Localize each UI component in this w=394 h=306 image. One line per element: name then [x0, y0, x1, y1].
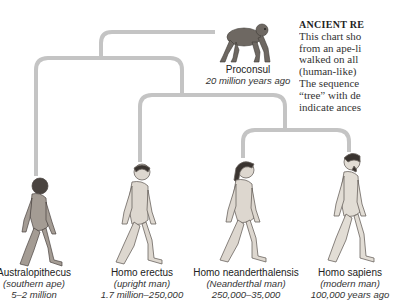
ancestor-name: Proconsul — [196, 64, 300, 75]
caption-line: “tree” with de — [299, 90, 389, 102]
species-date: 1.7 million–250,000 — [88, 289, 196, 300]
species-common-name: (modern man) — [300, 278, 394, 289]
species-common-name: (Neanderthal man) — [188, 278, 304, 289]
caption-text: ANCIENT RE This chart sho from an ape-li… — [299, 19, 389, 113]
species-name: Homo erectus — [88, 267, 196, 278]
ancestor-label: Proconsul 20 million years ago — [196, 64, 300, 86]
species-date: 250,000–35,000 — [188, 289, 304, 300]
species-common-name: (southern ape) — [0, 278, 76, 289]
species-label-australopithecus: Australopithecus (southern ape) 5–2 mill… — [0, 267, 76, 300]
species-name: Australopithecus — [0, 267, 76, 278]
caption-line: This chart sho — [299, 31, 389, 43]
ancestor-date: 20 million years ago — [196, 75, 300, 86]
homo-neanderthalensis-figure — [212, 158, 272, 268]
species-name: Homo sapiens — [300, 267, 394, 278]
caption-line: The sequence — [299, 78, 389, 90]
species-label-homo-erectus: Homo erectus (upright man) 1.7 million–2… — [88, 267, 196, 300]
australopithecus-figure — [10, 176, 66, 268]
species-label-homo-neanderthalensis: Homo neanderthalensis (Neanderthal man) … — [188, 267, 304, 300]
homo-erectus-figure — [106, 162, 166, 268]
homo-sapiens-figure — [318, 150, 378, 268]
proconsul-figure — [214, 18, 274, 64]
caption-line: indicate ances — [299, 102, 389, 114]
species-date: 100,000 years ago — [300, 289, 394, 300]
species-date: 5–2 million — [0, 289, 76, 300]
species-label-homo-sapiens: Homo sapiens (modern man) 100,000 years … — [300, 267, 394, 300]
species-common-name: (upright man) — [88, 278, 196, 289]
species-name: Homo neanderthalensis — [188, 267, 304, 278]
